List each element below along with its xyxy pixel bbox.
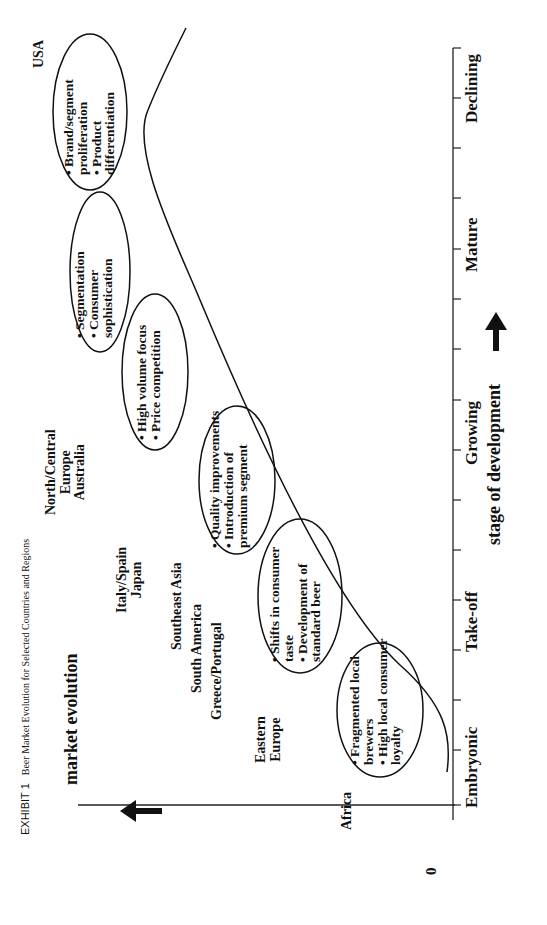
- region-africa: Africa: [340, 792, 355, 830]
- market-evolution-label: market evolution: [62, 654, 81, 785]
- stage-axis-ticks: [453, 48, 461, 805]
- origin-zero: 0: [424, 868, 440, 876]
- bubble-text-segmentation: • Segmentation• Consumer sophistication: [73, 251, 114, 338]
- region-usa: USA: [32, 40, 47, 68]
- region-greece-portugal: Greece/Portugal: [210, 622, 225, 720]
- bubble-text-quality: • Quality improvements• Introduction of …: [208, 411, 249, 548]
- stage-declining: Declining: [463, 54, 481, 123]
- region-southeast-asia: Southeast Asia: [170, 562, 185, 650]
- exhibit-caption: EXHIBIT 1Beer Market Evolution for Selec…: [20, 539, 32, 835]
- stage-of-development-label: stage of development: [485, 384, 504, 545]
- stage-embryonic: Embryonic: [463, 727, 481, 808]
- region-south-america: South America: [190, 604, 205, 693]
- exhibit-title: Beer Market Evolution for Selected Count…: [20, 539, 31, 775]
- bubble-text-volume: • High volume focus• Price competition: [135, 325, 163, 440]
- exhibit-number: EXHIBIT 1: [19, 783, 31, 835]
- market-evolution-arrow-icon: [120, 800, 162, 822]
- stage-takeoff: Take-off: [463, 591, 481, 652]
- bubble-text-embryonic: • Fragmented local brewers• High local c…: [348, 638, 403, 765]
- region-eastern-europe: EasternEurope: [254, 716, 283, 763]
- bubble-text-takeoff: • Shifts in consumer taste• Development …: [268, 547, 323, 662]
- stage-growing: Growing: [463, 401, 481, 465]
- region-italy-spain-japan: Italy/SpainJapan: [115, 547, 144, 613]
- stage-mature: Mature: [463, 218, 481, 272]
- region-north-central-europe-australia: North/CentralEuropeAustralia: [44, 429, 88, 515]
- stage-arrow-icon: [485, 312, 507, 351]
- bubble-text-proliferation: • Brand/segment proliferation• Product d…: [62, 79, 117, 175]
